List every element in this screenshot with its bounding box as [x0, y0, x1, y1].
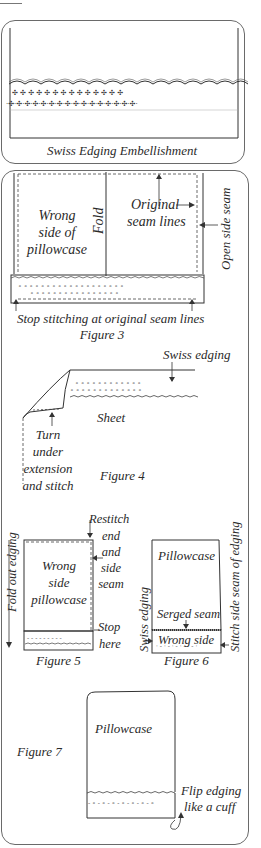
figure7-label-flip-edging: Flip edging [181, 784, 241, 798]
figure7-label-like-a-cuff: like a cuff [184, 800, 235, 814]
figure7-label-pillowcase: Pillowcase [95, 722, 152, 736]
figure7-caption: Figure 7 [17, 745, 62, 759]
svg-text:- ∘ - ∘ - ∘ - ∘ - ∘ - ∘ - ∘: - ∘ - ∘ - ∘ - ∘ - ∘ - ∘ - ∘ [88, 799, 154, 806]
